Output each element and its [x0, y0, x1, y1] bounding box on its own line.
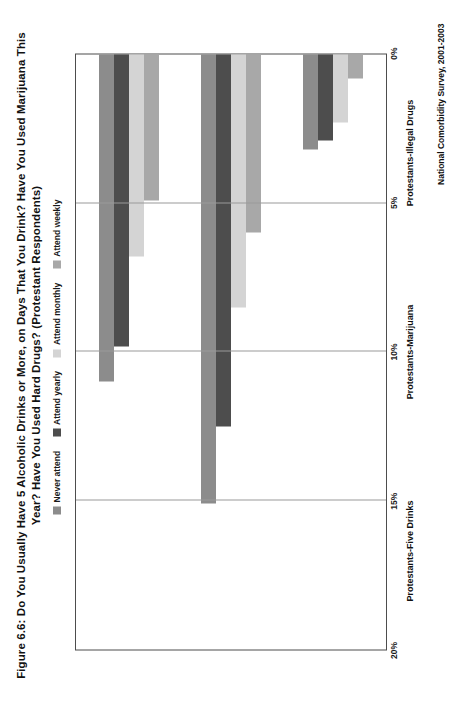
legend-item: Attend monthly — [52, 282, 62, 356]
source-note: National Comorbidity Survey, 2001-2003 — [436, 23, 446, 713]
axis-tick-label: 15% — [389, 492, 399, 509]
legend-label: Attend yearly — [52, 371, 62, 425]
gridline — [76, 202, 386, 203]
chart-legend: Never attendAttend yearlyAttend monthlyA… — [52, 0, 62, 713]
axis-tick-label: 20% — [389, 641, 399, 658]
bar[interactable] — [114, 54, 129, 346]
gridline — [76, 499, 386, 500]
axis-tick-label: 5% — [389, 196, 399, 208]
value-axis: 0%5%10%15%20% — [389, 53, 405, 650]
bar[interactable] — [99, 54, 114, 381]
plot-area — [75, 53, 387, 650]
plot-frame — [75, 53, 387, 650]
legend-item: Attend weekly — [52, 199, 62, 268]
legend-swatch-icon — [53, 506, 61, 514]
bar[interactable] — [303, 54, 318, 149]
axis-tick-label: 0% — [389, 47, 399, 59]
figure-page: Figure 6.6: Do You Usually Have 5 Alcoho… — [0, 0, 460, 713]
category-axis: Protestants-Five DrinksProtestants-Marij… — [405, 53, 425, 650]
category-label: Protestants-Illegal Drugs — [405, 99, 415, 206]
category-label: Protestants-Marijuana — [405, 304, 415, 399]
bar[interactable] — [318, 54, 333, 140]
bar[interactable] — [348, 54, 363, 78]
legend-item: Never attend — [52, 450, 62, 514]
category-label: Protestants-Five Drinks — [405, 500, 415, 601]
legend-swatch-icon — [53, 349, 61, 357]
axis-tick-label: 10% — [389, 343, 399, 360]
gridline — [76, 351, 386, 352]
legend-swatch-icon — [53, 428, 61, 436]
legend-swatch-icon — [53, 260, 61, 268]
bar[interactable] — [144, 54, 159, 200]
bar[interactable] — [201, 54, 216, 503]
bar[interactable] — [231, 54, 246, 307]
bar[interactable] — [129, 54, 144, 256]
bar[interactable] — [333, 54, 348, 122]
legend-label: Never attend — [52, 450, 62, 502]
legend-label: Attend monthly — [52, 282, 62, 344]
legend-label: Attend weekly — [52, 199, 62, 256]
legend-item: Attend yearly — [52, 371, 62, 437]
bar[interactable] — [246, 54, 261, 233]
page-title: Figure 6.6: Do You Usually Have 5 Alcoho… — [14, 25, 44, 685]
bar[interactable] — [216, 54, 231, 426]
